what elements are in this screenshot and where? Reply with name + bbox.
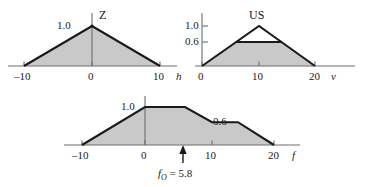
z-xtick-label-10: 10 [153, 71, 164, 82]
panel-z: 1.0 Z –10 0 10 h [0, 0, 185, 95]
f-axis-variable-label: f [292, 150, 295, 161]
us-xtick-label-10: 10 [252, 71, 263, 82]
z-xtick-label-0: 0 [88, 71, 94, 82]
z-peak-value-label: 1.0 [57, 20, 71, 31]
us-series-label: US [249, 9, 264, 21]
f-xtick-label-20: 20 [268, 150, 279, 161]
z-peak-marker [90, 24, 93, 27]
centroid-up-arrow-icon [179, 145, 186, 163]
us-ytick-label-high: 1.0 [185, 20, 199, 31]
us-xtick-label-20: 20 [309, 71, 320, 82]
f-xtick-label-10: 10 [205, 150, 216, 161]
centroid-equation-rest: = 5.8 [167, 167, 192, 179]
f-peak-value-label: 1.0 [121, 101, 135, 112]
z-axis-variable-label: h [176, 71, 182, 82]
us-ytick-label-low: 0.6 [185, 36, 199, 47]
centroid-value-label: fO = 5.8 [158, 168, 192, 182]
us-xtick-label-0: 0 [198, 71, 204, 82]
panel-f: 1.0 0.6 –10 0 10 20 f fO = 5.8 [0, 90, 369, 187]
panel-us-plot [185, 0, 369, 95]
z-xtick-label--10: –10 [14, 71, 31, 82]
figure-canvas: 1.0 Z –10 0 10 h 1.0 0.6 [0, 0, 369, 187]
panel-us: 1.0 0.6 US 0 10 20 v [185, 0, 369, 95]
us-axis-variable-label: v [331, 71, 336, 82]
f-shoulder-value-label: 0.6 [213, 116, 227, 127]
f-xtick-label-0: 0 [141, 150, 147, 161]
z-series-label: Z [99, 9, 106, 21]
f-xtick-label--10: –10 [72, 150, 89, 161]
